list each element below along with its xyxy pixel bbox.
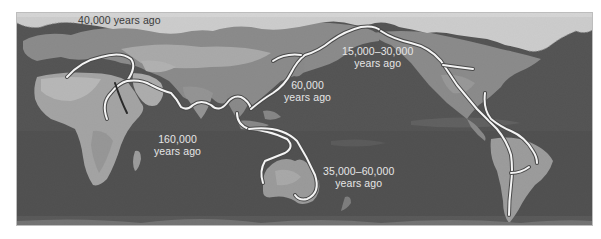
label-australia: 35,000–60,000 years ago [323,165,394,189]
map-graphic [17,13,593,226]
label-beringia: 15,000–30,000 years ago [342,45,413,69]
label-east-asia: 60,000 years ago [284,79,331,103]
label-africa-origin: 160,000 years ago [154,133,201,157]
world-migration-map [16,12,593,226]
label-europe: 40,000 years ago [78,14,161,26]
